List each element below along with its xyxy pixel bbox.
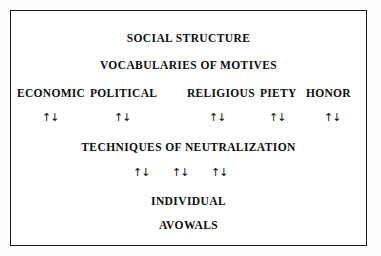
arrow-updown-political: ↑↓ (114, 112, 130, 123)
arrow-updown-lower-1: ↑↓ (133, 167, 149, 178)
arrow-updown-religious: ↑↓ (209, 112, 225, 123)
diagram-frame: SOCIAL STRUCTURE VOCABULARIES OF MOTIVES… (10, 10, 367, 246)
term-honor: HONOR (306, 87, 351, 99)
arrow-updown-economic: ↑↓ (42, 112, 58, 123)
term-piety: PIETY (260, 87, 297, 99)
term-religious: RELIGIOUS (187, 87, 255, 99)
arrow-updown-piety: ↑↓ (269, 112, 285, 123)
arrow-updown-honor: ↑↓ (324, 112, 340, 123)
label-individual: INDIVIDUAL (11, 195, 366, 207)
arrow-updown-lower-3: ↑↓ (211, 167, 227, 178)
label-social-structure: SOCIAL STRUCTURE (11, 32, 366, 44)
figure-root: SOCIAL STRUCTURE VOCABULARIES OF MOTIVES… (0, 0, 381, 256)
term-economic: ECONOMIC (17, 87, 85, 99)
term-political: POLITICAL (90, 87, 157, 99)
label-avowals: AVOWALS (11, 219, 366, 231)
label-vocabularies-of-motives: VOCABULARIES OF MOTIVES (11, 59, 366, 71)
arrow-updown-lower-2: ↑↓ (172, 167, 188, 178)
label-techniques-of-neutralization: TECHNIQUES OF NEUTRALIZATION (11, 141, 366, 153)
